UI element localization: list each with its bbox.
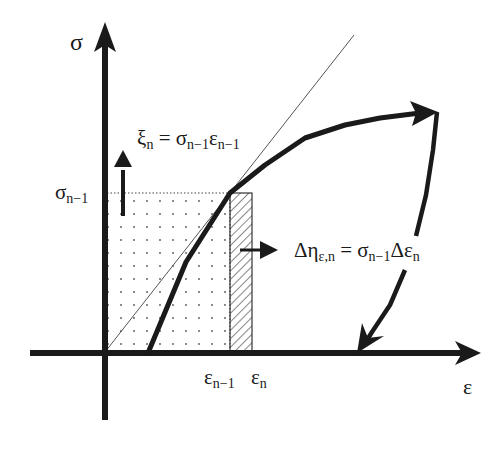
eq-term: ξ (137, 126, 146, 150)
eq-term: ε (209, 126, 218, 150)
y-axis-label: σ (70, 30, 83, 54)
eq-sub: n−1 (218, 137, 240, 152)
x-tick-sub: n−1 (213, 376, 235, 391)
eq-term: Δη (294, 238, 319, 262)
eq-sub: ε,n (319, 249, 335, 264)
eq-sign: = (153, 126, 175, 150)
x-tick-eps-n-1: εn−1 (204, 367, 235, 391)
hatched-strip (230, 193, 252, 352)
xi-equation: ξn = σn−1εn−1 (137, 128, 240, 152)
eq-sub: n (413, 249, 420, 264)
eq-term: σ (357, 238, 368, 262)
y-tick-main: σ (55, 180, 66, 204)
eta-equation: Δηε,n = σn−1Δεn (294, 240, 420, 264)
eq-term: Δε (390, 238, 412, 262)
y-tick-sigma-n-1: σn−1 (55, 182, 88, 206)
stress-strain-diagram (0, 0, 500, 452)
eq-sub: n−1 (187, 137, 209, 152)
x-tick-main: ε (251, 365, 260, 389)
y-tick-sub: n−1 (66, 191, 88, 206)
return-arc-arrow-icon (357, 323, 384, 353)
x-tick-sub: n (260, 376, 267, 391)
x-tick-main: ε (204, 365, 213, 389)
return-arc-upper (416, 112, 437, 236)
x-tick-eps-n: εn (251, 367, 267, 391)
eta-arrow-icon (260, 241, 278, 259)
return-arc-lower (364, 270, 405, 345)
eq-sub: n−1 (369, 249, 391, 264)
eq-sign: = (335, 238, 357, 262)
xi-arrow-icon (114, 150, 132, 167)
eq-term: σ (176, 126, 187, 150)
x-axis-label: ε (463, 376, 472, 398)
